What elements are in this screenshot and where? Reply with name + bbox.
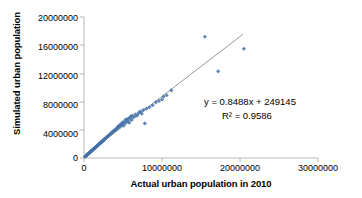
scatter-point <box>203 35 207 39</box>
r-squared-value: R² = 0.9586 <box>222 110 272 121</box>
scatter-point <box>151 103 155 107</box>
y-axis-ticks <box>80 17 84 158</box>
scatter-point <box>169 88 173 92</box>
x-axis-ticks <box>84 158 318 162</box>
scatter-point <box>143 121 147 125</box>
scatter-point <box>216 69 220 73</box>
axis-lines <box>84 17 318 158</box>
plot-area <box>0 0 362 198</box>
scatter-chart: Simulated urban population Actual urban … <box>0 0 362 198</box>
regression-equation: y = 0.8488x + 249145 <box>204 96 296 107</box>
scatter-point <box>242 47 246 51</box>
